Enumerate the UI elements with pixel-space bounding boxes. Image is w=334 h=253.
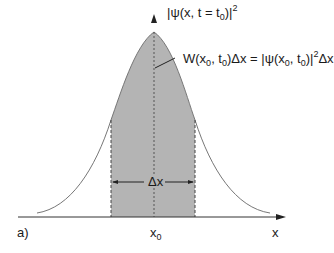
probability-annotation: W(x0, t0)Δx = |ψ(x0, t0)|2Δx bbox=[183, 50, 334, 68]
y-axis-arrowhead-icon bbox=[151, 14, 157, 23]
panel-label: a) bbox=[17, 226, 29, 239]
y-axis-label: |ψ(x, t = t0)|2 bbox=[167, 4, 238, 22]
x-axis-arrowhead-icon bbox=[276, 214, 286, 220]
x-axis-label: x bbox=[272, 226, 279, 239]
delta-x-label: Δx bbox=[147, 175, 164, 188]
x0-label: x0 bbox=[150, 226, 162, 242]
